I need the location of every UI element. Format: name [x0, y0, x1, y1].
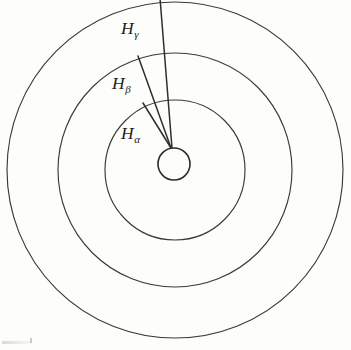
label-h-alpha: Hα [121, 125, 140, 145]
transition-line-gamma [160, 0, 172, 148]
nucleus-circle [158, 148, 190, 180]
label-h-gamma: Hγ [121, 20, 139, 40]
label-h-beta-subscript: β [125, 83, 130, 95]
orbit-circle-n2 [105, 100, 245, 240]
orbit-diagram-canvas [0, 0, 351, 350]
bohr-orbit-diagram: Hγ Hβ Hα [0, 0, 351, 350]
scan-edge-tick [30, 338, 32, 343]
scan-edge-artifact [2, 341, 32, 344]
label-h-beta-main: H [112, 73, 125, 93]
label-h-gamma-subscript: γ [134, 28, 138, 40]
label-h-beta: Hβ [112, 75, 131, 95]
orbit-circle-n4 [7, 2, 343, 338]
label-h-alpha-subscript: α [134, 133, 140, 145]
label-h-alpha-main: H [121, 123, 134, 143]
orbit-circle-n3 [58, 53, 292, 287]
label-h-gamma-main: H [121, 18, 134, 38]
